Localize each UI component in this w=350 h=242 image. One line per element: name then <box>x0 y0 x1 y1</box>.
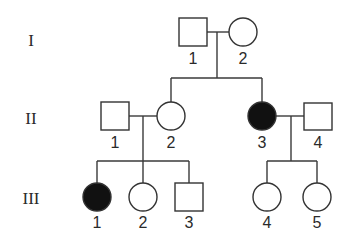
individual-label-II-4: 4 <box>314 134 323 151</box>
individual-label-III-3: 3 <box>185 214 194 231</box>
generation-label-II: II <box>25 109 37 128</box>
individual-III-4-female-circle <box>253 183 281 211</box>
individual-label-III-5: 5 <box>313 214 322 231</box>
individual-II-4-male-square <box>304 103 332 130</box>
individual-label-II-1: 1 <box>111 134 120 151</box>
individual-II-1-male-square <box>101 102 129 130</box>
individual-II-3-affected-female-circle <box>248 102 276 130</box>
individual-label-II-3: 3 <box>258 134 267 151</box>
generation-label-I: I <box>28 31 34 50</box>
individual-III-3-male-square <box>175 183 203 211</box>
individual-label-II-2: 2 <box>167 134 176 151</box>
individual-III-5-female-circle <box>303 183 331 211</box>
individual-label-III-1: 1 <box>93 214 102 231</box>
individual-label-I-1: 1 <box>189 50 198 67</box>
individual-label-I-2: 2 <box>239 50 248 67</box>
individual-I-2-female-circle <box>229 18 257 46</box>
individual-I-1-male-square <box>179 18 207 46</box>
individual-III-1-affected-female-circle <box>83 183 111 211</box>
generation-label-III: III <box>23 189 40 208</box>
individual-label-III-2: 2 <box>139 214 148 231</box>
individual-label-III-4: 4 <box>263 214 272 231</box>
pedigree-chart: I II III 1 2 1 2 3 4 1 2 3 <box>0 0 350 242</box>
individual-II-2-female-circle <box>157 102 185 130</box>
individual-III-2-female-circle <box>129 183 157 211</box>
